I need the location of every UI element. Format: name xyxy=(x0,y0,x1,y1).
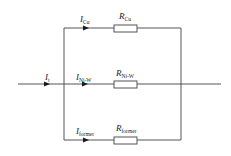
label-resistor-former: Rformer xyxy=(115,123,137,134)
parallel-circuit-diagram: It ICu RCu INi-W RNi-W Iformer Rformer xyxy=(0,0,231,156)
arrow-icon-cu xyxy=(83,26,89,31)
resistor-cu xyxy=(114,25,137,32)
resistor-former xyxy=(114,137,137,144)
label-current-ni-w: INi-W xyxy=(75,72,92,83)
label-current-cu: ICu xyxy=(79,14,90,25)
label-resistor-cu: RCu xyxy=(118,11,131,22)
label-current-former: Iformer xyxy=(75,126,94,137)
resistor-ni-w xyxy=(114,81,137,88)
label-resistor-ni-w: RNi-W xyxy=(115,68,135,79)
arrow-icon-former xyxy=(83,138,89,143)
label-input-current: It xyxy=(44,72,50,83)
